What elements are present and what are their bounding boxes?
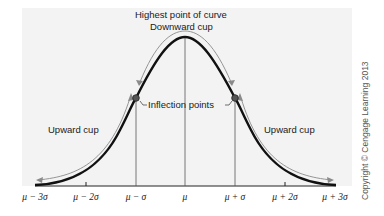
tick-mu-plus-sigma: μ + σ [225, 192, 246, 202]
label-upward-cup-right: Upward cup [264, 124, 315, 135]
inflection-leader-left [140, 101, 147, 105]
label-downward-cup: Downward cup [150, 21, 213, 32]
tick-mu-minus-2sigma: μ − 2σ [73, 192, 98, 202]
tick-mu: μ [183, 192, 188, 202]
tick-mu-minus-sigma: μ − σ [126, 192, 147, 202]
inflection-leader-right [225, 101, 232, 105]
normal-curve [35, 37, 336, 185]
tick-mu-minus-3sigma: μ − 3σ [22, 192, 47, 202]
axis-ticks [86, 182, 285, 186]
copyright-notice: Copyright © Cengage Learning 2013 [360, 61, 370, 200]
inflection-point-left [133, 95, 140, 102]
inflection-point-right [232, 95, 239, 102]
label-highest-point: Highest point of curve [135, 9, 227, 20]
label-inflection-points: Inflection points [148, 99, 214, 110]
tick-mu-plus-2sigma: μ + 2σ [272, 192, 297, 202]
label-upward-cup-left: Upward cup [48, 124, 99, 135]
tick-mu-plus-3sigma: μ + 3σ [322, 192, 347, 202]
